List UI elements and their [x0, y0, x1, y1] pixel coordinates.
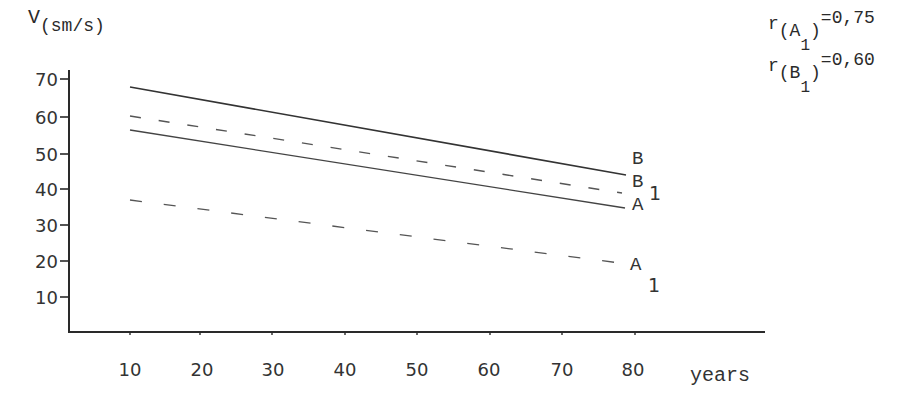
series-label-a1-subscript: 1 — [648, 274, 660, 296]
x-tick-labels: 10 20 30 40 50 60 70 80 — [119, 359, 645, 380]
chart-plot: 70 60 50 40 30 20 10 10 20 30 40 50 60 7… — [0, 0, 902, 399]
x-tick-label: 10 — [119, 359, 142, 380]
y-tick-label: 10 — [35, 287, 58, 308]
x-tick-label: 20 — [191, 359, 214, 380]
y-tick-labels: 70 60 50 40 30 20 10 — [35, 69, 58, 308]
y-tick-label: 60 — [35, 107, 58, 128]
x-tick-label: 30 — [262, 359, 285, 380]
series-label-b1: B — [632, 171, 643, 193]
y-tick-label: 30 — [35, 215, 58, 236]
x-tick-label: 40 — [334, 359, 357, 380]
y-ticks — [60, 79, 69, 297]
x-axis-label: years — [690, 364, 750, 387]
series-label-b1-subscript: 1 — [649, 182, 661, 204]
series-label-a1: A — [630, 254, 642, 276]
y-tick-label: 20 — [35, 251, 58, 272]
y-tick-label: 70 — [35, 69, 58, 90]
y-tick-label: 40 — [35, 179, 58, 200]
series-label-b: B — [632, 148, 643, 170]
series-line-a — [130, 130, 625, 208]
series-line-b — [130, 87, 626, 175]
x-tick-label: 60 — [478, 359, 501, 380]
x-tick-label: 50 — [406, 359, 429, 380]
y-tick-label: 50 — [35, 144, 58, 165]
series-line-a1 — [130, 200, 620, 263]
series-line-b1 — [130, 116, 622, 193]
x-tick-label: 70 — [551, 359, 574, 380]
series-label-a: A — [632, 194, 644, 216]
x-tick-label: 80 — [622, 359, 645, 380]
